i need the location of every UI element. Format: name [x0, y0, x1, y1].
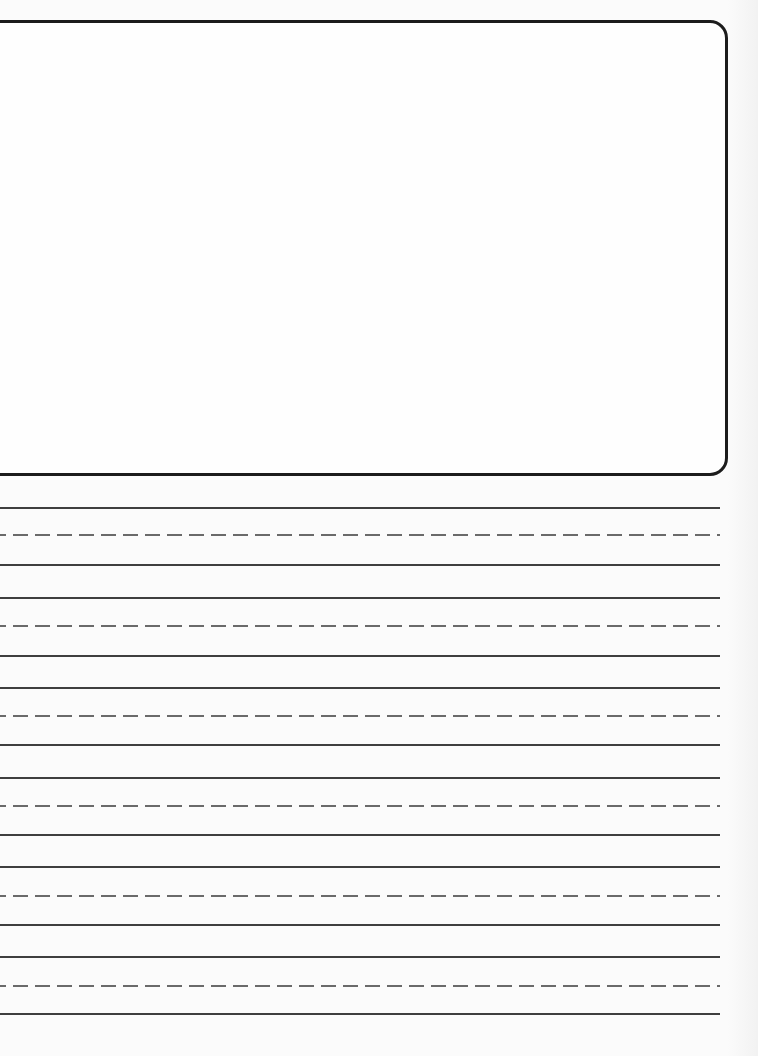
top-line [0, 687, 720, 689]
baseline [0, 1013, 720, 1015]
top-line [0, 597, 720, 599]
baseline [0, 834, 720, 836]
midline [0, 985, 720, 987]
midline [0, 895, 720, 897]
handwriting-lines [0, 0, 758, 1056]
midline [0, 715, 720, 717]
top-line [0, 956, 720, 958]
baseline [0, 744, 720, 746]
top-line [0, 777, 720, 779]
baseline [0, 564, 720, 566]
midline [0, 534, 720, 536]
midline [0, 805, 720, 807]
top-line [0, 507, 720, 509]
midline [0, 625, 720, 627]
baseline [0, 924, 720, 926]
top-line [0, 866, 720, 868]
baseline [0, 655, 720, 657]
